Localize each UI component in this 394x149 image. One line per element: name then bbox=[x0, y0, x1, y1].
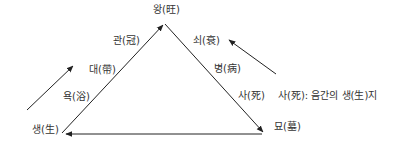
label-saeng: 생(生) bbox=[32, 124, 59, 136]
label-sa: 사(死) bbox=[238, 90, 265, 102]
diagram-lines bbox=[0, 0, 394, 149]
label-soe: 쇠(衰) bbox=[193, 35, 220, 47]
rising-arrow-left bbox=[27, 66, 73, 110]
label-yok: 욕(浴) bbox=[63, 91, 90, 103]
life-cycle-diagram: 왕(旺) 관(冠) 쇠(衰) 대(帶) 병(病) 욕(浴) 사(死) 사(死):… bbox=[0, 0, 394, 149]
label-gwan: 관(冠) bbox=[113, 35, 140, 47]
annotation-sa-yin: 사(死): 음간의 생(生)지 bbox=[278, 90, 377, 102]
label-byeong: 병(病) bbox=[214, 63, 241, 75]
label-wang: 왕(旺) bbox=[153, 4, 180, 16]
label-dae: 대(帶) bbox=[89, 64, 116, 76]
label-myo: 묘(墓) bbox=[274, 121, 301, 133]
